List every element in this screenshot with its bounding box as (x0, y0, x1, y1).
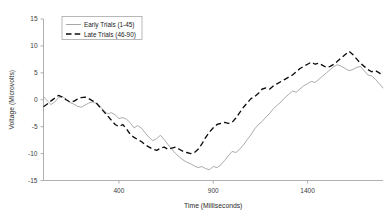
y-tick-label: 0 (34, 96, 38, 103)
x-axis: 4009001400 Time (Milliseconds) (44, 181, 384, 210)
y-tick-label: -15 (28, 177, 38, 184)
x-tick-group: 4009001400 (114, 181, 316, 194)
y-tick-label: -10 (28, 150, 38, 157)
legend-label-early: Early Trials (1-45) (84, 21, 134, 29)
y-tick-label: 10 (30, 42, 38, 49)
series-line-early-trials (44, 65, 384, 170)
chart-legend: Early Trials (1-45) Late Trials (46-90) (62, 17, 142, 40)
x-tick-label: 900 (208, 187, 219, 194)
y-tick-label: -5 (32, 123, 38, 130)
chart-canvas: 151050-5-10-15 Voltage (Microvolts) 4009… (0, 0, 391, 224)
y-tick-label: 15 (30, 15, 38, 22)
series-group (44, 51, 384, 169)
y-tick-group: 151050-5-10-15 (28, 15, 43, 184)
x-tick-label: 400 (114, 187, 125, 194)
y-tick-label: 5 (34, 69, 38, 76)
y-axis-title: Voltage (Microvolts) (8, 70, 16, 130)
y-axis: 151050-5-10-15 Voltage (Microvolts) (8, 15, 44, 184)
x-tick-label: 1400 (300, 187, 315, 194)
x-axis-title: Time (Milliseconds) (184, 202, 242, 210)
legend-label-late: Late Trials (46-90) (84, 31, 136, 39)
erp-chart: 151050-5-10-15 Voltage (Microvolts) 4009… (0, 0, 391, 224)
